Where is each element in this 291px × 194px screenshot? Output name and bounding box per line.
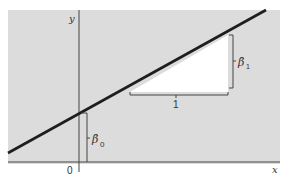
svg-text:β̂: β̂ [91,133,98,146]
svg-text:β̂: β̂ [237,56,244,69]
run-label: 1 [173,99,179,110]
x-axis-label: x [272,164,278,175]
regression-diagram: y 0 x 1 β̂ 1 β̂ 0 [0,0,291,194]
y-axis-label: y [68,13,75,24]
origin-label: 0 [67,165,73,176]
svg-text:1: 1 [246,63,250,70]
svg-text:0: 0 [100,140,105,149]
